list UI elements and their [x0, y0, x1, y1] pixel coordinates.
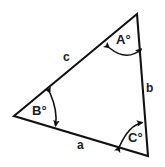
- angle-arc-b: [50, 93, 56, 126]
- side-label-b: b: [146, 82, 153, 94]
- side-label-a: a: [77, 139, 84, 151]
- triangle-diagram: A° B° C° a b c: [0, 0, 165, 167]
- angle-arc-a: [110, 48, 142, 55]
- angle-label-c: C°: [128, 131, 143, 144]
- angle-label-a: A°: [116, 33, 131, 46]
- side-label-c: c: [63, 51, 70, 63]
- angle-label-b: B°: [32, 104, 47, 117]
